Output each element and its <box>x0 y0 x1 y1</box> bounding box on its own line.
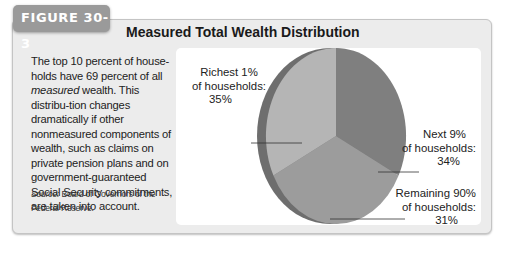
label-remaining: Remaining 90% of households: 31% <box>381 187 476 228</box>
label-richest-value: 35% <box>187 93 271 107</box>
label-richest-line1: Richest 1% <box>187 66 271 80</box>
label-next-line1: Next 9% <box>390 128 476 142</box>
label-next-value: 34% <box>390 155 476 169</box>
label-remaining-line1: Remaining 90% <box>381 187 476 201</box>
label-remaining-value: 31% <box>381 214 476 228</box>
label-remaining-line2: of households: <box>381 201 476 215</box>
figure-source: Source: Board of Governors of the Federa… <box>31 187 181 215</box>
label-next-line2: of households: <box>390 142 476 156</box>
chart-area: Richest 1% of households: 35% Next 9% of… <box>176 48 481 225</box>
label-richest: Richest 1% of households: 35% <box>187 66 271 107</box>
label-next: Next 9% of households: 34% <box>390 128 476 169</box>
source-label: Source: <box>31 189 59 199</box>
label-richest-line2: of households: <box>187 80 271 94</box>
caption-text-1: The top 10 percent of house-holds have 6… <box>31 55 169 82</box>
figure-label-tab: FIGURE 30-3 <box>13 5 110 32</box>
caption-emphasis: measured <box>31 84 79 96</box>
chart-title: Measured Total Wealth Distribution <box>126 24 360 40</box>
